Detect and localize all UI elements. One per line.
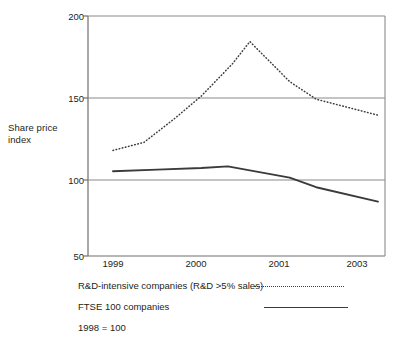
legend-item-ftse100: FTSE 100 companies bbox=[78, 301, 403, 322]
legend-label-rd-intensive: R&D-intensive companies (R&D >5% sales) bbox=[78, 280, 263, 291]
legend-label-ftse100: FTSE 100 companies bbox=[78, 301, 169, 312]
series-line-rd-intensive bbox=[113, 42, 378, 151]
chart-legend: R&D-intensive companies (R&D >5% sales) … bbox=[78, 280, 403, 322]
legend-swatch-dotted-line bbox=[254, 286, 344, 289]
series-line-ftse100 bbox=[113, 166, 378, 201]
legend-item-rd-intensive: R&D-intensive companies (R&D >5% sales) bbox=[78, 280, 403, 301]
legend-note: 1998 = 100 bbox=[78, 322, 126, 333]
share-price-index-chart: Share price index 200 150 100 50 1999 20… bbox=[0, 0, 403, 344]
legend-swatch-solid-line bbox=[264, 307, 348, 308]
